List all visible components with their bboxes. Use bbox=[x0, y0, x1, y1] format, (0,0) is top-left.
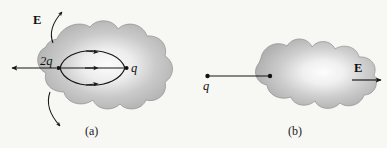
field-label-e-a: E bbox=[33, 13, 41, 27]
charge-label-q-a: q bbox=[131, 61, 137, 75]
physics-figure: 2q q E (a) E q (b) bbox=[0, 0, 387, 148]
interior-point-dot-b bbox=[268, 74, 272, 78]
charge-dot-q-a bbox=[124, 66, 128, 70]
charge-dot-2q bbox=[56, 66, 60, 70]
panel-caption-b: (b) bbox=[288, 124, 302, 138]
panel-caption-a: (a) bbox=[85, 124, 98, 138]
panel-b: E q (b) bbox=[203, 39, 381, 138]
charge-label-2q: 2q bbox=[40, 54, 53, 68]
gaussian-surface-blob-a bbox=[38, 21, 173, 109]
field-label-e-b: E bbox=[354, 61, 362, 75]
charge-dot-q-b bbox=[205, 74, 209, 78]
panel-a: 2q q E (a) bbox=[12, 12, 173, 138]
figure-canvas: 2q q E (a) E q (b) bbox=[0, 0, 387, 148]
field-arrow-lower-curved bbox=[48, 92, 60, 126]
charge-label-q-b: q bbox=[203, 79, 209, 93]
